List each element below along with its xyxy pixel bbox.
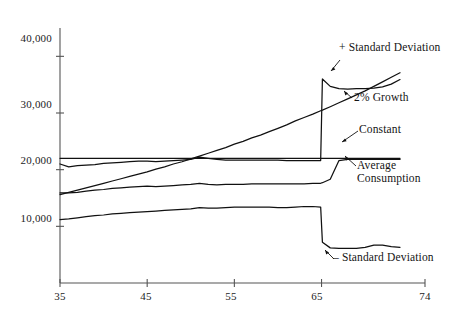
series-line-standard-deviation <box>60 79 400 167</box>
series-line-2-growth <box>60 73 400 195</box>
series-line-average-consumption <box>60 159 400 192</box>
annotation-2-percent-growth: 2% Growth <box>354 91 409 104</box>
x-tick-label-45: 45 <box>134 290 158 302</box>
annotation-minus-standard-deviation: – Standard Deviation <box>333 251 434 264</box>
annotation-average-consumption: Average Consumption <box>357 159 421 185</box>
chart-figure: 40,000 30,000 20,000 10,000 35 45 55 65 … <box>0 0 461 317</box>
annotation-constant: Constant <box>359 123 401 136</box>
y-tick-label-30000: 30,000 <box>10 98 52 110</box>
series-line-standard-deviation <box>60 207 400 249</box>
x-tick-label-65: 65 <box>305 290 329 302</box>
y-tick-label-10000: 10,000 <box>10 212 52 224</box>
y-tick-label-20000: 20,000 <box>10 154 52 166</box>
x-tick-label-74: 74 <box>413 290 437 302</box>
x-tick-label-55: 55 <box>219 290 243 302</box>
y-tick-label-40000: 40,000 <box>10 32 52 44</box>
x-tick-label-35: 35 <box>48 290 72 302</box>
annotation-plus-standard-deviation: + Standard Deviation <box>339 41 440 54</box>
data-series-group <box>60 73 400 249</box>
leader-arrow-plus-sd <box>331 67 335 71</box>
leader-arrow-growth <box>344 91 348 95</box>
